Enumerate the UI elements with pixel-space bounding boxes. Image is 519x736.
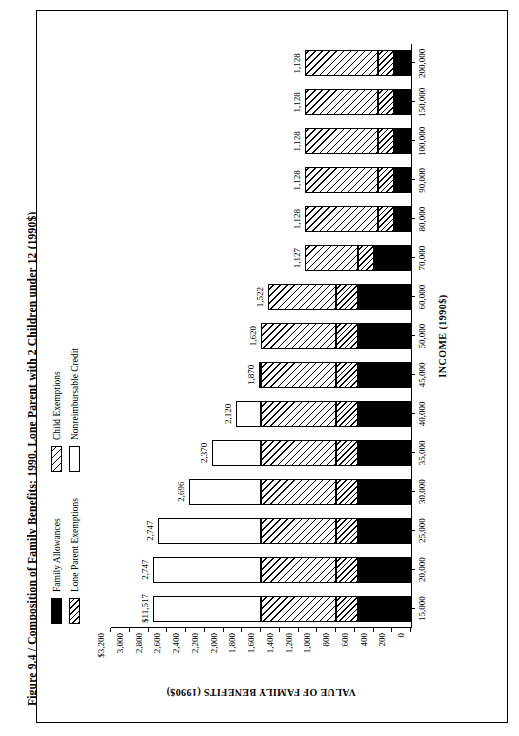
x-axis-tick-mark (411, 413, 415, 414)
bar-segment-fa (394, 89, 411, 115)
bar-segment-nc (153, 557, 261, 583)
bar-segment-lp (336, 518, 358, 544)
bar: 1,128 (111, 50, 411, 76)
bar-value-label: 2,696 (176, 482, 186, 502)
bar-segment-lp (378, 206, 393, 232)
x-axis-tick-label: 25,000 (417, 518, 427, 543)
y-axis-tick-mark (335, 628, 336, 632)
x-axis-tick-mark (411, 296, 415, 297)
y-axis-tick-label: 2,200 (190, 628, 200, 653)
x-axis-tick-mark (411, 62, 415, 63)
bar-segment-lp (336, 284, 358, 310)
bar-segment-fa (394, 206, 411, 232)
x-axis-line (411, 44, 412, 628)
bar-segment-fa (358, 440, 411, 466)
bar-segment-ce (261, 323, 336, 349)
bar-segment-ce (261, 479, 336, 505)
bar-value-label: 1,127 (292, 248, 302, 268)
legend-label-child-exemptions: Child Exemptions (52, 371, 62, 440)
bar-segment-lp (378, 89, 393, 115)
y-axis-tick-mark (204, 628, 205, 632)
y-axis-tick-mark (354, 628, 355, 632)
bar-segment-lp (378, 50, 393, 76)
bar: 1,128 (111, 167, 411, 193)
y-axis-tick-label: 2,000 (209, 628, 219, 653)
x-axis-tick-label: 70,000 (417, 246, 427, 271)
x-axis-tick-label: 150,000 (417, 88, 427, 117)
bar-segment-ce (268, 284, 336, 310)
bar-value-label: 1,522 (255, 287, 265, 307)
bar-segment-lp (336, 401, 358, 427)
bar-segment-nc (153, 596, 261, 622)
bar-segment-fa (358, 518, 411, 544)
legend-swatch-lone-parent-exemptions (69, 598, 80, 624)
legend-item-lone-parent-exemptions: Lone Parent Exemptions (69, 498, 80, 624)
chart-canvas: Family Allowances Lone Parent Exemptions… (37, 11, 505, 720)
bar-segment-nc (158, 518, 261, 544)
bar-value-label: 2,370 (199, 443, 209, 463)
bar-segment-fa (358, 479, 411, 505)
bar: 1,127 (111, 245, 411, 271)
x-axis-tick-mark (411, 608, 415, 609)
x-axis-tick-mark (411, 452, 415, 453)
bar: 2,747 (111, 557, 411, 583)
bar-segment-lp (378, 167, 393, 193)
x-axis-tick-mark (411, 491, 415, 492)
bar-value-label: 1,128 (292, 92, 302, 112)
bar-segment-ce (261, 557, 336, 583)
legend-label-family-allowances: Family Allowances (52, 518, 62, 592)
x-axis-tick-mark (411, 218, 415, 219)
x-axis-tick-label: 100,000 (417, 127, 427, 156)
y-axis-tick-mark (410, 628, 411, 632)
chart-frame: Family Allowances Lone Parent Exemptions… (36, 10, 508, 723)
bar-segment-ce (305, 128, 378, 154)
bar-value-label: 1,128 (292, 131, 302, 151)
y-axis-tick-label: 200 (377, 628, 387, 647)
legend-swatch-family-allowances (51, 598, 62, 624)
bar-segment-fa (358, 323, 411, 349)
y-axis-tick-mark (110, 628, 111, 632)
plot-area: 02004006008001,0001,2001,4001,6001,8002,… (111, 44, 411, 628)
y-axis-tick-mark (241, 628, 242, 632)
y-axis-tick-mark (316, 628, 317, 632)
bar-segment-ce (305, 245, 358, 271)
x-axis-tick-label: 30,000 (417, 479, 427, 504)
x-axis-tick-label: 90,000 (417, 168, 427, 193)
y-axis-tick-mark (298, 628, 299, 632)
bar-segment-lp (336, 323, 358, 349)
y-axis-tick-mark (373, 628, 374, 632)
bar-segment-fa (358, 362, 411, 388)
bar-value-label: 2,747 (145, 521, 155, 541)
bar-value-label: 2,120 (223, 404, 233, 424)
x-axis-tick-label: 45,000 (417, 363, 427, 388)
y-axis-tick-mark (260, 628, 261, 632)
bar-segment-lp (358, 245, 373, 271)
bar-segment-nc (189, 479, 261, 505)
legend-item-family-allowances: Family Allowances (51, 498, 62, 624)
bar-segment-fa (394, 50, 411, 76)
bar-segment-fa (358, 284, 411, 310)
bar-value-label: 1,128 (292, 53, 302, 73)
y-axis-tick-mark (185, 628, 186, 632)
bar-segment-nc (212, 440, 261, 466)
bar: 2,370 (111, 440, 411, 466)
bar: 1,128 (111, 89, 411, 115)
y-axis-tick-label: 1,000 (302, 628, 312, 653)
bar-value-label: $11,517 (140, 594, 150, 623)
bar: 1,870 (111, 362, 411, 388)
y-axis-title: VALUE OF FAMILY BENEFITS (1990$) (111, 687, 411, 698)
x-axis-tick-label: 60,000 (417, 285, 427, 310)
bar: 2,747 (111, 518, 411, 544)
bar-segment-ce (305, 50, 378, 76)
bar-segment-fa (394, 128, 411, 154)
bar-value-label: 1,870 (246, 365, 256, 385)
x-axis-tick-mark (411, 179, 415, 180)
x-axis-tick-label: 200,000 (417, 49, 427, 78)
y-axis-tick-mark (279, 628, 280, 632)
x-axis-tick-mark (411, 101, 415, 102)
y-axis-tick-mark (166, 628, 167, 632)
x-axis-tick-label: 40,000 (417, 402, 427, 427)
bar-segment-ce (261, 596, 336, 622)
legend-swatch-child-exemptions (51, 446, 62, 472)
bar-segment-ce (261, 362, 336, 388)
